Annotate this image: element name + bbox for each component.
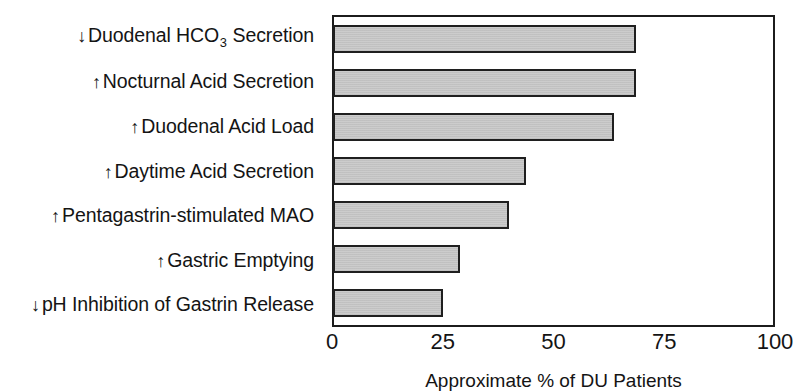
bar-row bbox=[334, 281, 773, 325]
x-axis-caption: Approximate % of DU Patients bbox=[332, 371, 775, 391]
category-label-text: Gastric Emptying bbox=[167, 249, 314, 271]
up-arrow-icon: ↑ bbox=[51, 206, 62, 226]
bar bbox=[333, 113, 614, 141]
category-label: ↑Daytime Acid Secretion bbox=[104, 161, 314, 182]
category-label-text: Nocturnal Acid Secretion bbox=[103, 70, 314, 92]
subscript-3: 3 bbox=[219, 35, 227, 50]
plot-area bbox=[332, 15, 775, 327]
bar bbox=[333, 157, 526, 185]
bar bbox=[333, 245, 460, 273]
category-label-row: ↓pH Inhibition of Gastrin Release bbox=[0, 282, 322, 327]
category-label: ↑Duodenal Acid Load bbox=[130, 116, 314, 137]
down-arrow-icon: ↓ bbox=[31, 295, 42, 315]
category-label-text: pH Inhibition of Gastrin Release bbox=[42, 293, 314, 315]
bar-series bbox=[334, 17, 773, 325]
up-arrow-icon: ↑ bbox=[92, 72, 103, 92]
bar-row bbox=[334, 105, 773, 149]
bar bbox=[333, 289, 443, 317]
up-arrow-icon: ↑ bbox=[156, 251, 167, 271]
bar-row bbox=[334, 149, 773, 193]
category-label-row: ↑Gastric Emptying bbox=[0, 238, 322, 283]
category-label: ↑Gastric Emptying bbox=[156, 250, 314, 271]
category-label-text-tail: Secretion bbox=[227, 24, 314, 46]
category-label-row: ↓Duodenal HCO3 Secretion bbox=[0, 15, 322, 60]
x-tick-label: 0 bbox=[326, 331, 338, 353]
category-label-row: ↑Pentagastrin-stimulated MAO bbox=[0, 193, 322, 238]
category-label: ↓Duodenal HCO3 Secretion bbox=[77, 25, 314, 49]
category-label-row: ↑Nocturnal Acid Secretion bbox=[0, 60, 322, 105]
bar bbox=[333, 201, 509, 229]
x-tick-label: 25 bbox=[431, 331, 455, 353]
category-label-row: ↑Daytime Acid Secretion bbox=[0, 149, 322, 194]
up-arrow-icon: ↑ bbox=[130, 117, 141, 137]
x-tick-label: 100 bbox=[757, 331, 793, 353]
x-tick-label: 75 bbox=[652, 331, 676, 353]
category-label-text: Duodenal Acid Load bbox=[141, 115, 314, 137]
bar-row bbox=[334, 61, 773, 105]
category-label-text: Duodenal HCO bbox=[88, 24, 219, 46]
bar-row bbox=[334, 237, 773, 281]
up-arrow-icon: ↑ bbox=[104, 162, 115, 182]
x-axis-tick-labels: 0 25 50 75 100 bbox=[332, 331, 775, 361]
category-label: ↓pH Inhibition of Gastrin Release bbox=[31, 294, 314, 315]
bar bbox=[333, 25, 636, 53]
category-label-row: ↑Duodenal Acid Load bbox=[0, 104, 322, 149]
category-label-text: Daytime Acid Secretion bbox=[115, 160, 314, 182]
down-arrow-icon: ↓ bbox=[77, 26, 88, 46]
bar-row bbox=[334, 193, 773, 237]
bar bbox=[333, 69, 636, 97]
bar-row bbox=[334, 17, 773, 61]
x-tick-label: 50 bbox=[541, 331, 565, 353]
category-label-text: Pentagastrin-stimulated MAO bbox=[62, 204, 314, 226]
category-label: ↑Pentagastrin-stimulated MAO bbox=[51, 205, 314, 226]
category-label-column: ↓Duodenal HCO3 Secretion ↑Nocturnal Acid… bbox=[0, 15, 322, 327]
category-label: ↑Nocturnal Acid Secretion bbox=[92, 71, 314, 92]
